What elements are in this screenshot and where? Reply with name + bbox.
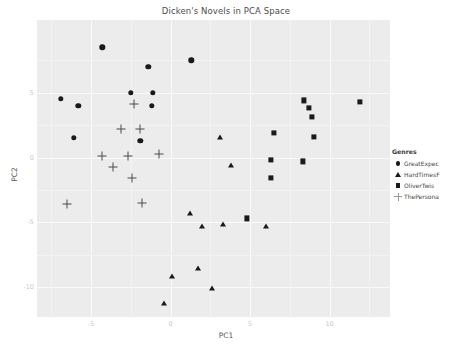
data-point-plus <box>130 100 139 109</box>
data-point-plus <box>128 174 137 183</box>
legend-marker-plus-icon <box>392 193 404 201</box>
y-tick-label: -10 <box>22 283 34 291</box>
data-point-triangle <box>195 266 201 271</box>
scatter-chart-figure: Dicken's Novels in PCA Space -50510 50-5… <box>0 0 452 356</box>
y-tick-label: 5 <box>22 89 34 97</box>
data-point-triangle <box>263 223 269 228</box>
data-point-square <box>300 159 305 164</box>
legend-marker-square-icon <box>392 183 404 188</box>
x-tick-label: 10 <box>325 320 333 328</box>
plot-area <box>37 20 390 317</box>
legend-entry[interactable]: ThePersona <box>392 191 452 202</box>
data-point-circle <box>188 57 193 62</box>
legend-label: ThePersona <box>404 193 439 200</box>
data-point-square <box>268 176 273 181</box>
data-point-square <box>271 130 276 135</box>
x-tick-label: 0 <box>169 320 173 328</box>
data-point-triangle <box>199 223 205 228</box>
data-point-triangle <box>209 285 215 290</box>
data-point-plus <box>137 198 146 207</box>
data-point-triangle <box>220 222 226 227</box>
y-tick-label: -5 <box>22 218 34 226</box>
data-point-triangle <box>217 135 223 140</box>
y-axis-label: PC2 <box>10 155 19 195</box>
legend-marker-circle-icon <box>392 161 404 166</box>
data-point-triangle <box>187 210 193 215</box>
data-point-square <box>302 98 307 103</box>
legend-entries: GreatExpecHardTimesFOliverTwisThePersona <box>392 158 452 202</box>
legend-entry[interactable]: GreatExpec <box>392 158 452 169</box>
data-point-plus <box>136 124 145 133</box>
data-point-triangle <box>228 162 234 167</box>
data-point-triangle <box>169 274 175 279</box>
legend-label: OliverTwis <box>404 182 434 189</box>
data-point-square <box>310 115 315 120</box>
legend-marker-triangle-icon <box>392 172 404 177</box>
data-point-circle <box>146 64 151 69</box>
data-point-square <box>311 134 316 139</box>
data-point-square <box>268 158 273 163</box>
data-point-triangle <box>161 301 167 306</box>
data-point-plus <box>123 152 132 161</box>
data-point-circle <box>138 138 143 143</box>
legend-label: GreatExpec <box>404 160 439 167</box>
data-point-circle <box>128 90 133 95</box>
data-point-circle <box>99 44 104 49</box>
data-point-circle <box>71 135 76 140</box>
y-tick-label: 0 <box>22 154 34 162</box>
x-tick-label: -5 <box>88 320 94 328</box>
data-point-square <box>357 99 362 104</box>
legend-entry[interactable]: OliverTwis <box>392 180 452 191</box>
data-point-circle <box>149 103 154 108</box>
legend-entry[interactable]: HardTimesF <box>392 169 452 180</box>
x-axis-label: PC1 <box>0 331 452 340</box>
data-point-circle <box>58 96 63 101</box>
legend-label: HardTimesF <box>404 171 440 178</box>
legend: Genres GreatExpecHardTimesFOliverTwisThe… <box>392 148 452 202</box>
data-point-plus <box>109 162 118 171</box>
x-tick-label: 5 <box>248 320 252 328</box>
data-point-plus <box>155 149 164 158</box>
data-point-circle <box>150 90 155 95</box>
data-point-square <box>306 106 311 111</box>
data-point-circle <box>76 103 81 108</box>
data-point-square <box>244 216 249 221</box>
data-point-plus <box>98 152 107 161</box>
data-point-plus <box>117 124 126 133</box>
data-point-plus <box>63 200 72 209</box>
legend-title: Genres <box>392 148 452 155</box>
data-points-layer <box>37 20 390 317</box>
chart-title: Dicken's Novels in PCA Space <box>0 6 452 16</box>
